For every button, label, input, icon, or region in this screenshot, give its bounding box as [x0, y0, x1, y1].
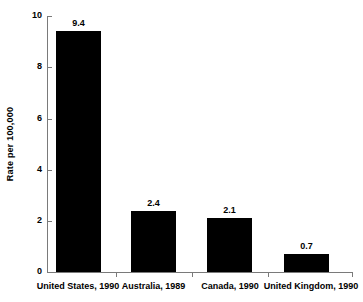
x-category-label: Canada, 1990	[195, 281, 265, 291]
x-category-label: United Kingdom, 1990	[259, 281, 363, 291]
y-tick-mark	[48, 170, 52, 171]
y-tick-label: 0	[22, 266, 42, 276]
x-tick-mark	[268, 273, 269, 277]
x-tick-mark	[192, 273, 193, 277]
y-tick-mark	[48, 67, 52, 68]
x-axis-line	[47, 272, 353, 273]
x-tick-mark	[116, 273, 117, 277]
x-tick-mark	[352, 273, 353, 277]
x-category-label: Australia, 1989	[112, 281, 195, 291]
bar-chart: Rate per 100,000 0 2 4 6 8 10 9.4 United…	[0, 0, 363, 302]
y-tick-mark	[48, 221, 52, 222]
bar-value-label: 9.4	[56, 18, 101, 28]
x-category-label: United States, 1990	[33, 281, 123, 291]
y-tick-label: 6	[22, 113, 42, 123]
y-axis-label: Rate per 100,000	[2, 16, 18, 272]
y-tick-label: 10	[22, 10, 42, 20]
bar-united-states	[56, 31, 101, 272]
y-axis-line	[47, 16, 48, 273]
y-tick-label: 4	[22, 164, 42, 174]
y-tick-label: 8	[22, 61, 42, 71]
bar-australia	[131, 211, 176, 272]
bar-value-label: 2.1	[207, 205, 252, 215]
bar-canada	[207, 218, 252, 272]
y-tick-label: 2	[22, 215, 42, 225]
bar-united-kingdom	[284, 254, 329, 272]
bar-value-label: 2.4	[131, 198, 176, 208]
bar-value-label: 0.7	[284, 241, 329, 251]
y-tick-mark	[48, 16, 52, 17]
y-tick-mark	[48, 119, 52, 120]
